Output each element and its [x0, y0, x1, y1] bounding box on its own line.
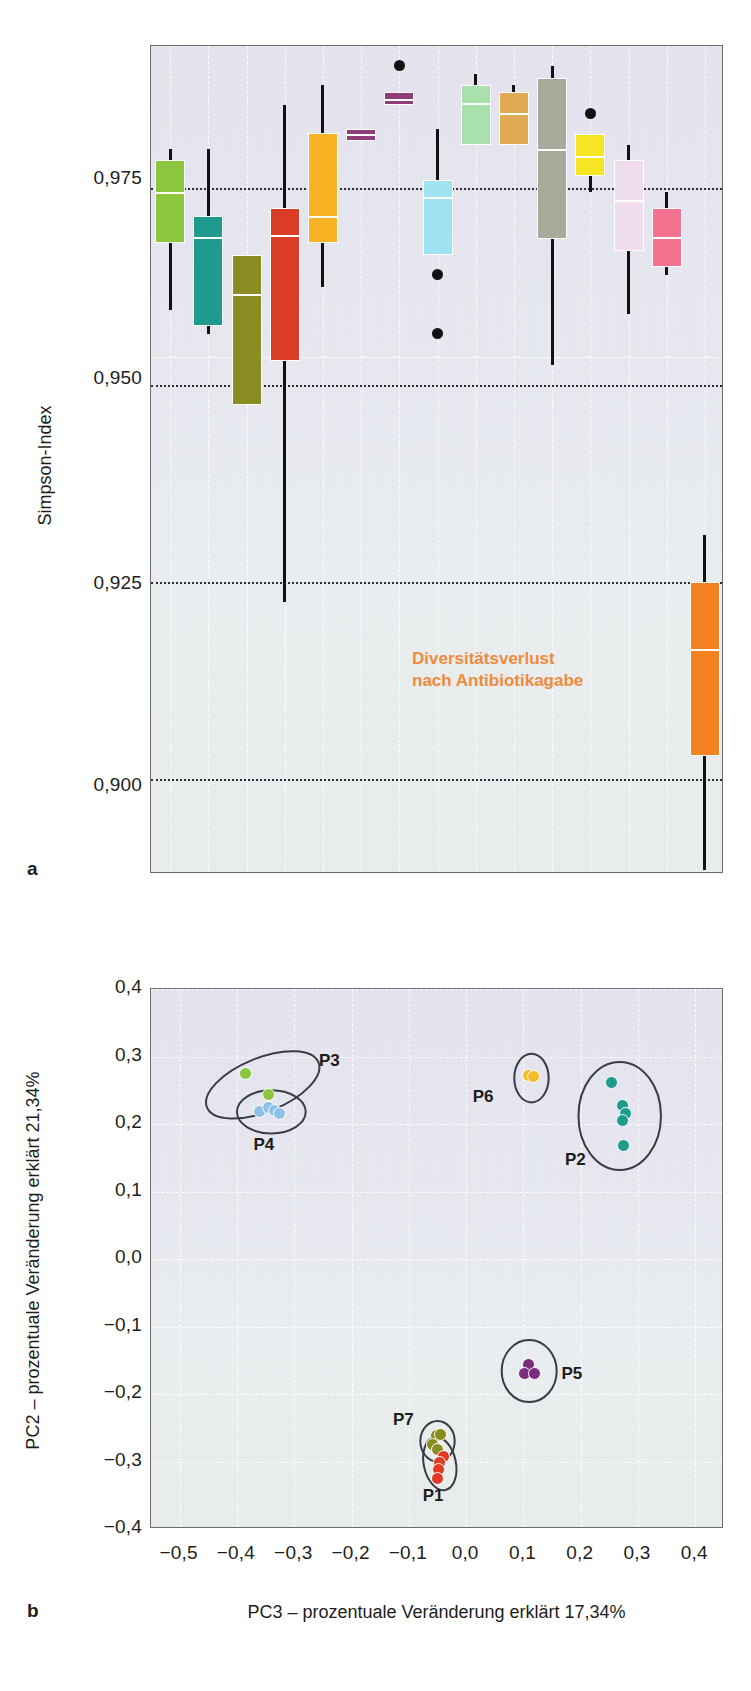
- boxplot-panel-a: [150, 45, 723, 873]
- boxplot-median: [384, 99, 414, 101]
- scatter-point-P3: [239, 1067, 252, 1080]
- gridline-vertical: [361, 46, 363, 872]
- boxplot-median: [575, 156, 605, 158]
- annotation-diversity-loss: Diversitätsverlust nach Antibiotikagabe: [412, 648, 583, 692]
- y-tick-b-3: 0,1: [50, 1179, 142, 1201]
- boxplot-box: [423, 180, 453, 255]
- figure-root: 0,975 0,950 0,925 0,900 Simpson-Index Di…: [0, 0, 751, 1691]
- x-tick-b-8: 0,3: [607, 1542, 667, 1564]
- boxplot-box: [537, 78, 567, 240]
- boxplot-box: [499, 92, 529, 145]
- scatter-point-P1: [431, 1472, 444, 1485]
- boxplot-median: [270, 235, 300, 237]
- boxplot-median: [232, 294, 262, 296]
- boxplot-box: [308, 133, 338, 243]
- boxplot-median: [690, 649, 720, 651]
- y-tick-a-3: 0,900: [50, 774, 142, 796]
- y-tick-b-7: −0,3: [50, 1449, 142, 1471]
- boxplot-median: [461, 103, 491, 105]
- y-tick-a-0: 0,975: [50, 167, 142, 189]
- boxplot-box: [155, 160, 185, 243]
- gridline-vertical: [247, 46, 249, 872]
- boxplot-box: [614, 160, 644, 251]
- boxplot-box: [270, 208, 300, 362]
- annotation-line-1: Diversitätsverlust: [412, 649, 555, 668]
- boxplot-median: [423, 197, 453, 199]
- cluster-label-P5: P5: [561, 1364, 582, 1384]
- cluster-label-P2: P2: [565, 1150, 586, 1170]
- boxplot-median: [155, 192, 185, 194]
- y-tick-b-2: 0,2: [50, 1111, 142, 1133]
- boxplot-median: [346, 134, 376, 136]
- gridline-vertical: [667, 46, 669, 872]
- y-tick-b-8: −0,4: [50, 1516, 142, 1538]
- panel-letter-b: b: [27, 1600, 39, 1622]
- y-axis-title-b: PC2 – prozentuale Veränderung erklärt 21…: [23, 1061, 44, 1461]
- boxplot-median: [193, 237, 223, 239]
- y-tick-b-0: 0,4: [50, 976, 142, 998]
- x-tick-b-5: 0,0: [435, 1542, 495, 1564]
- cluster-label-P4: P4: [253, 1135, 274, 1155]
- gridline-vertical: [476, 46, 478, 872]
- x-tick-b-2: −0,3: [263, 1542, 323, 1564]
- x-tick-b-3: −0,2: [321, 1542, 381, 1564]
- y-tick-b-6: −0,2: [50, 1381, 142, 1403]
- x-tick-b-1: −0,4: [206, 1542, 266, 1564]
- boxplot-median: [537, 149, 567, 151]
- boxplot-outlier: [394, 60, 405, 71]
- y-tick-a-1: 0,950: [50, 367, 142, 389]
- y-tick-b-5: −0,1: [50, 1314, 142, 1336]
- boxplot-box: [575, 134, 605, 176]
- cluster-ellipse-P3: [197, 1037, 329, 1132]
- boxplot-box: [232, 255, 262, 405]
- gridline-horizontal: [151, 582, 722, 584]
- boxplot-box: [461, 85, 491, 144]
- boxplot-median: [499, 113, 529, 115]
- gridline-vertical: [399, 46, 401, 872]
- x-axis-title-b: PC3 – prozentuale Veränderung erklärt 17…: [150, 1602, 723, 1623]
- cluster-label-P6: P6: [473, 1087, 494, 1107]
- cluster-label-P7: P7: [393, 1410, 414, 1430]
- boxplot-median: [652, 237, 682, 239]
- x-tick-b-9: 0,4: [664, 1542, 724, 1564]
- cluster-label-P3: P3: [319, 1051, 340, 1071]
- annotation-line-2: nach Antibiotikagabe: [412, 671, 583, 690]
- x-tick-b-6: 0,1: [492, 1542, 552, 1564]
- x-tick-b-7: 0,2: [550, 1542, 610, 1564]
- cluster-label-P1: P1: [423, 1486, 444, 1506]
- gridline-vertical: [514, 46, 516, 872]
- boxplot-outlier: [432, 269, 443, 280]
- panel-letter-a: a: [27, 858, 38, 880]
- boxplot-median: [308, 216, 338, 218]
- gridline-horizontal: [151, 779, 722, 781]
- boxplot-box: [193, 216, 223, 326]
- scatter-point-P2: [616, 1114, 629, 1127]
- boxplot-median: [614, 200, 644, 202]
- boxplot-box: [690, 582, 720, 755]
- boxplot-outlier: [585, 108, 596, 119]
- y-tick-b-1: 0,3: [50, 1044, 142, 1066]
- scatter-point-P6: [527, 1070, 540, 1083]
- boxplot-outlier: [432, 328, 443, 339]
- y-axis-title-a: Simpson-Index: [35, 386, 56, 546]
- y-tick-b-4: 0,0: [50, 1246, 142, 1268]
- x-tick-b-4: −0,1: [378, 1542, 438, 1564]
- x-tick-b-0: −0,5: [149, 1542, 209, 1564]
- scatter-panel-b: [150, 988, 723, 1528]
- scatter-point-P2: [605, 1076, 618, 1089]
- y-tick-a-2: 0,925: [50, 572, 142, 594]
